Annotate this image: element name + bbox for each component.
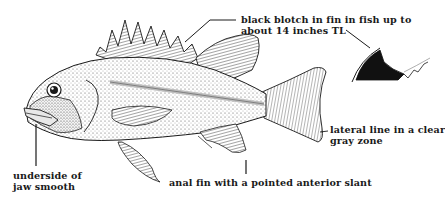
annotation-black-blotch: black blotch in fin in fish up to about … xyxy=(241,14,411,36)
pelvic-fin xyxy=(118,142,160,182)
annotation-lateral-line: lateral line in a clear gray zone xyxy=(330,124,445,146)
annotation-text-line: anal fin with a pointed anterior slant xyxy=(169,177,372,188)
annotation-jaw: underside of jaw smooth xyxy=(13,170,82,192)
annotation-text-line: about 14 inches TL xyxy=(241,25,411,36)
caudal-fin xyxy=(262,68,326,143)
annotation-text-line: lateral line in a clear xyxy=(330,124,445,135)
annotation-text-line: gray zone xyxy=(330,135,445,146)
blotch-inset xyxy=(352,48,430,82)
annotation-anal-fin: anal fin with a pointed anterior slant xyxy=(169,177,372,188)
annotation-text-line: jaw smooth xyxy=(13,181,82,192)
annotation-text-line: black blotch in fin in fish up to xyxy=(241,14,411,25)
annotation-text-line: underside of xyxy=(13,170,82,181)
